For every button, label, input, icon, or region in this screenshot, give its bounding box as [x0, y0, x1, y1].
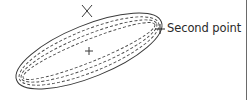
center-cross-icon	[85, 47, 93, 55]
first-point-x-icon	[82, 5, 92, 17]
diagram-canvas: Second point	[0, 0, 248, 100]
ellipse-diagram	[0, 0, 248, 100]
second-point-label: Second point	[167, 21, 241, 35]
right-edge-divider	[246, 0, 247, 100]
